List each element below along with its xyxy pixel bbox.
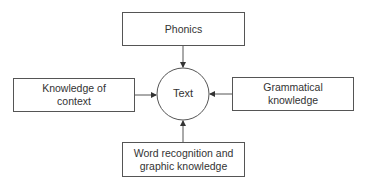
text-node-label: Text	[157, 87, 209, 99]
grammatical-knowledge-label: Grammatical knowledge	[261, 81, 325, 107]
phonics-label: Phonics	[165, 23, 202, 36]
grammatical-knowledge-box: Grammatical knowledge	[232, 77, 354, 111]
knowledge-of-context-label: Knowledge of context	[34, 82, 114, 108]
phonics-box: Phonics	[122, 12, 245, 46]
word-recognition-box: Word recognition and graphic knowledge	[122, 142, 245, 177]
word-recognition-label: Word recognition and graphic knowledge	[131, 147, 236, 173]
knowledge-of-context-box: Knowledge of context	[13, 78, 135, 112]
